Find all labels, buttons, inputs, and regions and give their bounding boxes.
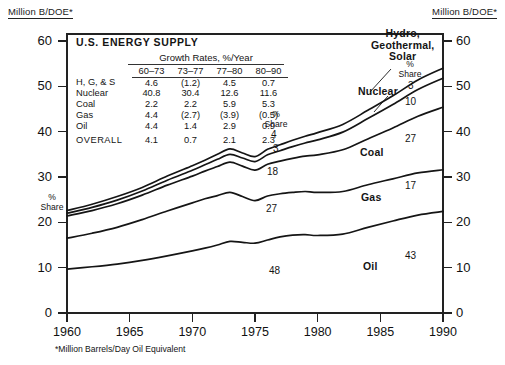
curve-label-oil: Oil [363,260,378,272]
panel-title: U.S. ENERGY SUPPLY [76,36,288,48]
table-row-label: Coal [76,99,132,110]
table-col-header-73-77: 73–77 [171,66,210,77]
table-cell: 5.3 [249,99,288,110]
curve-label-coal: Coal [360,146,384,158]
share-mid-nuclear: 3 [273,143,279,154]
share-right-hgs: 3 [408,80,414,91]
table-row: Coal2.22.25.95.3 [76,99,288,110]
share-mid-gas: 27 [266,203,277,214]
share-caption-left-word: Share [34,203,70,213]
growth-rates-header: Growth Rates, %/Year [128,52,284,65]
table-row: H, G, & S4.6(1.2)4.50.7 [76,77,288,88]
table-header-spacer [76,66,132,77]
table-cell: 40.8 [132,88,171,99]
table-cell: 11.6 [249,88,288,99]
share-right-oil: 43 [405,250,416,261]
share-right-gas: 17 [405,180,416,191]
table-row-label: Nuclear [76,88,132,99]
share-mid-coal: 18 [267,166,278,177]
table-row-label-overall: OVERALL [76,132,132,146]
table-row-overall: OVERALL4.10.72.12.3 [76,132,288,146]
curve-label-hydro: Hydro, Geothermal, Solar [371,28,434,63]
table-cell: 4.4 [132,121,171,132]
table-cell: 2.2 [132,99,171,110]
table-row: Nuclear40.830.412.611.6 [76,88,288,99]
table-cell: 4.5 [210,77,249,88]
share-mid-oil: 48 [269,265,280,276]
share-right-coal: 27 [405,133,416,144]
share-caption-right: % Share [392,60,428,79]
share-caption-mid-word: Share [258,120,294,130]
table-cell-overall: 0.7 [171,132,210,146]
share-mid-hgs: 4 [271,129,277,140]
growth-rates-table: 60–7373–7777–8080–90H, G, & S4.6(1.2)4.5… [76,66,288,145]
table-cell: (3.9) [210,110,249,121]
table-cell: 4.4 [132,110,171,121]
curve-label-hydro-l1: Hydro, [371,28,434,40]
share-caption-left: % Share [34,193,70,212]
table-cell: 30.4 [171,88,210,99]
table-cell-overall: 2.1 [210,132,249,146]
chart-figure: Million B/DOE* Million B/DOE* 0010102020… [0,0,505,365]
table-cell: 2.2 [171,99,210,110]
table-row-label: H, G, & S [76,77,132,88]
table-cell-overall: 4.1 [132,132,171,146]
table-row-label: Oil [76,121,132,132]
table-cell: 4.6 [132,77,171,88]
table-cell: 5.9 [210,99,249,110]
share-right-nuclear: 10 [405,96,416,107]
table-col-header-60-73: 60–73 [132,66,171,77]
table-col-header-77-80: 77–80 [210,66,249,77]
table-cell: 12.6 [210,88,249,99]
table-cell: 2.9 [210,121,249,132]
share-caption-mid: % Share [258,110,294,129]
table-row-label: Gas [76,110,132,121]
footnote: *Million Barrels/Day Oil Equivalent [55,344,185,354]
table-row: Gas4.4(2.7)(3.9)(0.5) [76,110,288,121]
table-cell: (2.7) [171,110,210,121]
curve-label-gas: Gas [361,191,381,203]
table-cell: (1.2) [171,77,210,88]
curve-oil [67,211,443,269]
curve-label-nuclear: Nuclear [358,85,398,97]
growth-rates-panel: U.S. ENERGY SUPPLY Growth Rates, %/Year … [76,36,288,145]
table-header-row: 60–7373–7777–8080–90 [76,66,288,77]
leader-line-nuclear [374,96,388,112]
share-caption-right-word: Share [392,70,428,80]
table-col-header-80-90: 80–90 [249,66,288,77]
curve-gas [67,170,443,238]
curve-label-hydro-l3: Solar [371,51,434,63]
table-cell: 1.4 [171,121,210,132]
table-cell-overall: 2.3 [249,132,288,146]
table-cell: 0.7 [249,77,288,88]
table-row: Oil4.41.42.90.9 [76,121,288,132]
